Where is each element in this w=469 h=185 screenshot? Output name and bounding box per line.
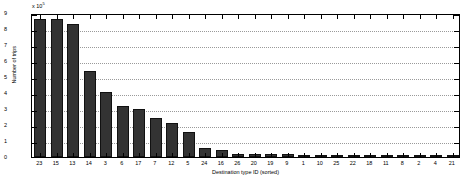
plot-area: [32, 15, 459, 157]
y-axis-tick-mark: [32, 63, 37, 64]
bar: [34, 19, 46, 157]
y-axis-tick-mark: [454, 111, 459, 112]
y-axis-tick-mark: [454, 95, 459, 96]
x-axis-tick-mark: [354, 15, 355, 19]
y-axis-tick-mark: [454, 143, 459, 144]
x-axis-tick-mark: [106, 15, 107, 19]
x-axis-tick-mark: [453, 15, 454, 19]
x-axis-tick-mark: [139, 15, 140, 19]
y-axis-tick-mark: [32, 143, 37, 144]
x-axis-tick-mark: [354, 153, 355, 157]
x-axis-tick-mark: [205, 153, 206, 157]
x-axis-tick-mark: [403, 153, 404, 157]
x-axis-tick-mark: [288, 153, 289, 157]
y-axis-tick-mark: [454, 31, 459, 32]
y-axis-tick-label: 3: [0, 107, 7, 113]
bar: [117, 106, 129, 157]
x-axis-tick-mark: [321, 153, 322, 157]
bar: [133, 109, 145, 157]
x-axis-tick-mark: [387, 153, 388, 157]
y-axis-exponent-value: 5: [42, 1, 44, 6]
y-axis-tick-mark: [32, 15, 37, 16]
y-axis-tick-mark: [454, 79, 459, 80]
x-axis-tick-mark: [238, 153, 239, 157]
x-axis-tick-mark: [73, 153, 74, 157]
y-axis-tick-mark: [32, 79, 37, 80]
x-axis-tick-mark: [304, 153, 305, 157]
x-axis-tick-mark: [172, 153, 173, 157]
x-axis-title: Destination type ID (sorted): [31, 170, 460, 176]
x-axis-tick-mark: [222, 15, 223, 19]
x-axis-tick-mark: [40, 15, 41, 19]
y-axis-tick-label: 7: [0, 43, 7, 49]
y-axis-tick-label: 1: [0, 139, 7, 145]
x-axis-tick-mark: [57, 15, 58, 19]
x-axis-tick-mark: [403, 15, 404, 19]
x-axis-tick-mark: [304, 15, 305, 19]
x-axis-tick-mark: [436, 153, 437, 157]
plot-axes: [31, 14, 460, 158]
x-axis-tick-mark: [420, 153, 421, 157]
figure-canvas: x 105 Number of trips 0123456789 2315131…: [0, 0, 469, 185]
y-axis-tick-mark: [454, 63, 459, 64]
y-axis-tick-label: 9: [0, 11, 7, 17]
x-axis-tick-mark: [123, 15, 124, 19]
x-axis-tick-mark: [337, 15, 338, 19]
x-axis-tick-mark: [387, 15, 388, 19]
y-axis-tick-mark: [32, 111, 37, 112]
y-axis-multiplier-text: x 10: [32, 3, 42, 9]
x-axis-tick-mark: [90, 153, 91, 157]
x-axis-tick-mark: [40, 153, 41, 157]
x-axis-tick-mark: [453, 153, 454, 157]
x-axis-tick-mark: [139, 153, 140, 157]
x-axis-tick-mark: [156, 15, 157, 19]
y-axis-tick-mark: [32, 95, 37, 96]
bar-series: [32, 15, 459, 157]
x-axis-tick-mark: [222, 153, 223, 157]
y-axis-tick-label: 0: [0, 155, 7, 161]
x-axis-tick-mark: [271, 15, 272, 19]
x-axis-tick-mark: [189, 15, 190, 19]
x-axis-tick-label: 21: [440, 161, 464, 167]
y-axis-tick-label: 6: [0, 59, 7, 65]
x-axis-tick-mark: [205, 15, 206, 19]
y-axis-tick-label: 4: [0, 91, 7, 97]
x-axis-tick-mark: [106, 153, 107, 157]
x-axis-tick-mark: [90, 15, 91, 19]
x-axis-tick-mark: [420, 15, 421, 19]
y-axis-tick-label: 2: [0, 123, 7, 129]
x-axis-tick-mark: [321, 15, 322, 19]
y-axis-tick-mark: [32, 127, 37, 128]
x-axis-tick-mark: [436, 15, 437, 19]
y-axis-tick-mark: [32, 47, 37, 48]
x-axis-tick-mark: [123, 153, 124, 157]
bar: [100, 92, 112, 157]
x-axis-tick-mark: [337, 153, 338, 157]
x-axis-tick-mark: [370, 15, 371, 19]
x-axis-tick-mark: [172, 15, 173, 19]
x-axis-tick-mark: [255, 15, 256, 19]
bar: [84, 71, 96, 157]
bar: [166, 123, 178, 157]
y-axis-tick-mark: [454, 47, 459, 48]
y-axis-tick-label: 5: [0, 75, 7, 81]
y-axis-title: Number of trips: [12, 20, 18, 110]
bar: [51, 19, 63, 157]
x-axis-tick-mark: [271, 153, 272, 157]
y-axis-tick-mark: [454, 15, 459, 16]
y-axis-exponent-label: x 105: [32, 4, 45, 10]
bar: [150, 118, 162, 157]
x-axis-tick-mark: [189, 153, 190, 157]
x-axis-tick-mark: [370, 153, 371, 157]
y-axis-tick-mark: [454, 127, 459, 128]
x-axis-tick-mark: [156, 153, 157, 157]
x-axis-tick-mark: [57, 153, 58, 157]
bar: [67, 24, 79, 157]
x-axis-tick-mark: [73, 15, 74, 19]
x-axis-tick-mark: [238, 15, 239, 19]
y-axis-tick-label: 8: [0, 27, 7, 33]
y-axis-tick-mark: [32, 31, 37, 32]
x-axis-tick-mark: [288, 15, 289, 19]
x-axis-tick-mark: [255, 153, 256, 157]
